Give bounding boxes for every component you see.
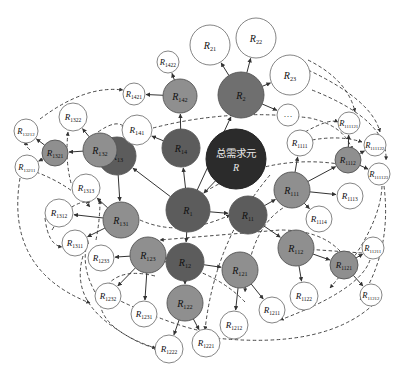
- edge-r1121-to-r11211: [356, 254, 363, 258]
- node-r11212[interactable]: R11212: [360, 284, 382, 306]
- root-label-symbol: R: [232, 162, 239, 173]
- edge-r131-to-r1311: [88, 228, 105, 237]
- edge-r13-to-r131: [118, 175, 120, 201]
- edge-r11-to-r111: [265, 199, 276, 205]
- node-r111121[interactable]: R111121: [338, 112, 360, 134]
- edge-r121-to-r1212: [236, 288, 238, 310]
- edge-r111-to-r1111: [295, 157, 298, 172]
- node-layer: R1R2R11R12R13R14R21R22R23…R111R112R121R1…: [14, 18, 390, 363]
- node-r12[interactable]: R12: [166, 243, 204, 281]
- edge-r123-to-r1231: [145, 273, 147, 300]
- edge-r131-to-r1312: [74, 215, 103, 218]
- node-r112[interactable]: R112: [278, 230, 314, 266]
- edge-r1-to-r14: [183, 168, 185, 188]
- dashed-edge: [312, 138, 362, 142]
- node-r21[interactable]: R21: [190, 25, 230, 65]
- edge-r1-to-r11: [210, 212, 228, 214]
- edge-r1112-to-r111122: [359, 151, 364, 154]
- edge-r2-to-r22: [247, 58, 251, 72]
- node-r123[interactable]: R123: [130, 237, 166, 273]
- node-r1211[interactable]: R1211: [259, 297, 285, 323]
- edge-r112-to-r1122: [299, 266, 302, 281]
- node-r1221[interactable]: R1221: [192, 329, 220, 357]
- edge-r122-to-r1222: [174, 320, 179, 335]
- node-r1122[interactable]: R1122: [290, 282, 318, 310]
- demand-decomposition-diagram: R1R2R11R12R13R14R21R22R23…R111R112R121R1…: [0, 0, 408, 375]
- edge-r122-to-r1221: [193, 319, 199, 330]
- edge-r142-to-r1422: [172, 73, 174, 80]
- edge-r132-to-r1321: [69, 151, 83, 152]
- edge-r142-to-r1421: [146, 95, 163, 96]
- node-r13211[interactable]: R13211: [15, 155, 39, 179]
- node-r1232[interactable]: R1232: [95, 283, 121, 309]
- node-ellipsis[interactable]: …: [277, 104, 299, 126]
- node-r1111[interactable]: R1111: [287, 130, 313, 156]
- node-r11211[interactable]: R11211: [362, 237, 384, 259]
- node-r122[interactable]: R122: [167, 285, 203, 321]
- node-r1121[interactable]: R1121: [330, 251, 358, 279]
- edge-r112-to-r1121: [313, 254, 330, 260]
- node-r14[interactable]: R14: [162, 129, 200, 167]
- node-r1311[interactable]: R1311: [62, 230, 88, 256]
- node-r1322[interactable]: R1322: [59, 103, 87, 131]
- edge-r131-to-r1313: [97, 198, 108, 208]
- node-r1312[interactable]: R1312: [45, 199, 73, 227]
- node-r1321[interactable]: R1321: [42, 140, 68, 166]
- node-r111[interactable]: R111: [274, 172, 310, 208]
- edge-r1321-to-r13211: [39, 159, 44, 161]
- node-r22[interactable]: R22: [236, 18, 276, 58]
- edge-r121-to-r1211: [251, 284, 263, 299]
- node-r11[interactable]: R11: [229, 196, 267, 234]
- node-r1222[interactable]: R1222: [155, 335, 183, 363]
- root-label-title: 总需求元: [216, 147, 257, 159]
- node-r111123[interactable]: R111123: [368, 163, 390, 185]
- dashed-edge: [98, 124, 125, 132]
- edge-r1321-to-r13212: [36, 139, 44, 145]
- edge-r2-to-r23: [262, 83, 270, 86]
- edge-r111-to-r1113: [310, 192, 336, 195]
- node-label: …: [284, 109, 293, 119]
- node-r1421[interactable]: R1421: [123, 83, 145, 105]
- edge-r123-to-r1232: [118, 268, 136, 286]
- edge-r2-to-ellipsis: [262, 104, 277, 110]
- node-r141[interactable]: R141: [122, 115, 152, 145]
- dashed-edge: [96, 200, 100, 240]
- node-r1114[interactable]: R1114: [306, 206, 332, 232]
- edge-r111-to-r1114: [304, 203, 309, 209]
- edge-r2-to-r21: [221, 63, 229, 76]
- node-r1112[interactable]: R1112: [335, 147, 361, 173]
- node-r1[interactable]: R1: [166, 188, 210, 232]
- edge-r1112-to-r111123: [360, 165, 368, 169]
- node-r1422[interactable]: R1422: [157, 51, 179, 73]
- node-r111122[interactable]: R111122: [364, 134, 386, 156]
- root-circle: [206, 129, 266, 189]
- node-r132[interactable]: R132: [83, 133, 117, 167]
- node-r2[interactable]: R2: [218, 72, 264, 118]
- edge-r-to-r1: [204, 181, 216, 193]
- node-r1212[interactable]: R1212: [220, 311, 248, 339]
- node-r1113[interactable]: R1113: [337, 183, 363, 209]
- dashed-edge: [24, 143, 30, 150]
- node-r13212[interactable]: R13212: [14, 119, 38, 143]
- edge-r14-to-r141: [152, 136, 164, 141]
- node-r1233[interactable]: R1233: [88, 245, 114, 271]
- edge-r111-to-r1112: [308, 167, 336, 182]
- node-r121[interactable]: R121: [222, 252, 258, 288]
- edge-r123-to-r1233: [115, 256, 130, 257]
- node-r23[interactable]: R23: [270, 55, 310, 95]
- root-node[interactable]: 总需求元 R: [206, 129, 266, 189]
- node-r1231[interactable]: R1231: [131, 301, 157, 327]
- edge-r1-to-r12: [186, 232, 187, 242]
- node-r1313[interactable]: R1313: [72, 174, 100, 202]
- dashed-edge: [308, 60, 355, 112]
- node-r142[interactable]: R142: [163, 79, 197, 113]
- edge-r132-to-r1322: [82, 129, 89, 137]
- node-r131[interactable]: R131: [103, 202, 139, 238]
- edge-r1-to-r13: [133, 168, 171, 197]
